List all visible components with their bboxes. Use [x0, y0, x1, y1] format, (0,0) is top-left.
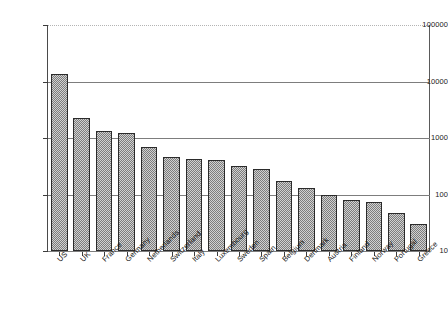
x-tick-label-us: US	[56, 250, 69, 263]
bars-group	[48, 25, 430, 251]
bar-germany	[118, 133, 135, 251]
bar-belgium	[276, 181, 293, 251]
bar-us	[51, 74, 68, 251]
bar-uk	[73, 118, 90, 251]
bar-luxembourg	[208, 160, 225, 251]
y-tick-mark	[43, 251, 48, 252]
bar-france	[96, 131, 113, 251]
bar-chart-figure: 10000010000100010010 USUKFranceGermanyNe…	[0, 0, 448, 319]
x-tick-label-uk: UK	[79, 250, 92, 263]
